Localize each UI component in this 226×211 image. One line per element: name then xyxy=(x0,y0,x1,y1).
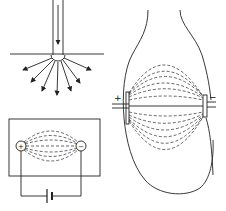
limb-outline-left xyxy=(123,10,213,194)
diagram-canvas: + − + − xyxy=(0,0,226,211)
minus-label-small: − xyxy=(78,143,84,151)
field-lines-small xyxy=(24,131,78,161)
plus-label-small: + xyxy=(18,143,24,151)
point-electrode-panel xyxy=(10,0,104,95)
bipolar-field-panel: + − xyxy=(9,119,100,203)
limb-field-panel: + − xyxy=(112,10,217,194)
negative-plate xyxy=(203,95,207,117)
field-lines-large xyxy=(129,65,203,150)
plus-label-large: + xyxy=(114,93,122,103)
limb-outline-right-upper xyxy=(180,10,211,100)
battery-circuit xyxy=(21,151,81,203)
limb-outline-right-lower xyxy=(206,118,213,175)
wire-left xyxy=(21,151,47,196)
minus-label-large: − xyxy=(209,92,217,102)
radial-arrows xyxy=(23,58,91,95)
wire-right xyxy=(53,151,81,196)
